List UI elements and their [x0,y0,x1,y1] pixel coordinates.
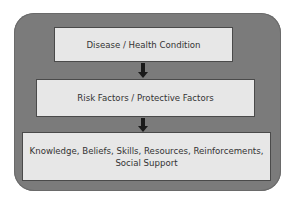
node-label: Disease / Health Condition [86,39,200,51]
node-label: Risk Factors / Protective Factors [77,92,213,104]
down-arrow-icon [138,63,148,78]
node-determinants: Knowledge, Beliefs, Skills, Resources, R… [22,132,271,181]
node-label: Knowledge, Beliefs, Skills, Resources, R… [29,145,264,169]
down-arrow-icon [138,118,148,132]
node-disease-health-condition: Disease / Health Condition [54,27,233,62]
node-risk-protective-factors: Risk Factors / Protective Factors [36,79,255,117]
